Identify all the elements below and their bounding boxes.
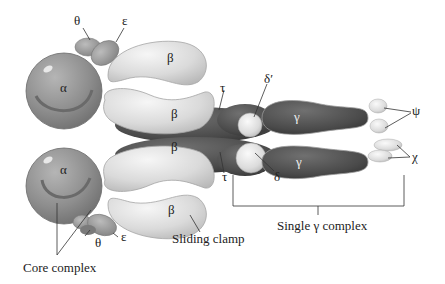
label-tau-bottom: τ [222, 170, 227, 183]
label-chi: χ [412, 150, 418, 163]
label-theta-bottom: θ [95, 236, 101, 249]
label-beta-top-inner: β [171, 107, 178, 120]
gamma-subunits [262, 101, 368, 179]
label-tau-top: τ [220, 81, 225, 94]
label-beta-top-outer: β [167, 51, 174, 64]
label-sliding-clamp: Sliding clamp [172, 232, 245, 245]
label-alpha-top: α [60, 81, 67, 94]
label-gamma-bottom: γ [296, 155, 302, 168]
label-epsilon-bottom: ε [121, 230, 126, 243]
label-psi: ψ [412, 104, 420, 117]
label-beta-bottom-outer: β [168, 203, 175, 216]
label-gamma-top: γ [294, 110, 300, 123]
label-single-gamma-complex: Single γ complex [277, 219, 367, 232]
label-beta-bottom-inner: β [171, 140, 178, 153]
label-epsilon-top: ε [122, 14, 127, 27]
label-delta-prime: δ′ [264, 72, 273, 85]
label-delta: δ [274, 170, 280, 183]
label-theta-top: θ [74, 14, 80, 27]
label-alpha-bottom: α [60, 163, 67, 176]
beta-top [104, 41, 215, 134]
alpha-subunits [26, 53, 102, 224]
label-core-complex: Core complex [23, 261, 96, 274]
beta-bottom [104, 146, 215, 239]
